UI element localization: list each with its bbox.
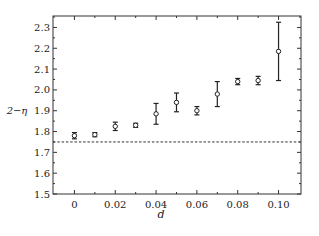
data-point xyxy=(194,107,199,115)
open-circle-marker xyxy=(195,109,199,113)
y-tick-label: 2.1 xyxy=(34,64,50,75)
data-points xyxy=(72,22,281,139)
open-circle-marker xyxy=(72,134,76,138)
open-circle-marker xyxy=(113,124,117,128)
x-tick-label: 0.02 xyxy=(104,199,126,210)
y-tick-label: 2.2 xyxy=(34,43,50,54)
data-point xyxy=(113,122,118,130)
open-circle-marker xyxy=(133,123,137,127)
open-circle-marker xyxy=(93,132,97,136)
x-tick-label: 0 xyxy=(71,199,77,210)
y-tick-label: 2.0 xyxy=(34,84,50,95)
y-axis-label: 2−η xyxy=(6,105,28,116)
y-tick-label: 1.6 xyxy=(34,168,50,179)
data-point xyxy=(235,78,240,84)
x-axis-label: d xyxy=(157,208,164,221)
data-point xyxy=(215,82,220,107)
x-tick-label: 0.10 xyxy=(267,199,289,210)
open-circle-marker xyxy=(215,92,219,96)
data-point xyxy=(133,123,138,127)
open-circle-marker xyxy=(256,78,260,82)
x-tick-label: 0.08 xyxy=(227,199,249,210)
data-point xyxy=(92,132,97,136)
y-tick-label: 1.8 xyxy=(34,126,50,137)
data-point xyxy=(276,22,281,80)
y-tick-label: 1.7 xyxy=(34,147,50,158)
data-point xyxy=(174,93,179,112)
data-point xyxy=(72,133,77,139)
data-point xyxy=(256,76,261,84)
y-tick-label: 1.5 xyxy=(34,189,50,200)
y-tick-label: 2.3 xyxy=(34,22,50,33)
chart: 00.020.040.060.080.10 1.51.61.71.81.92.0… xyxy=(0,0,319,236)
open-circle-marker xyxy=(236,79,240,83)
open-circle-marker xyxy=(276,49,280,53)
x-axis-ticks: 00.020.040.060.080.10 xyxy=(71,16,289,210)
y-tick-label: 1.9 xyxy=(34,105,50,116)
x-tick-label: 0.06 xyxy=(186,199,208,210)
open-circle-marker xyxy=(174,100,178,104)
open-circle-marker xyxy=(154,112,158,116)
y-axis-ticks: 1.51.61.71.81.92.02.12.22.3 xyxy=(34,17,301,199)
data-point xyxy=(154,103,159,124)
